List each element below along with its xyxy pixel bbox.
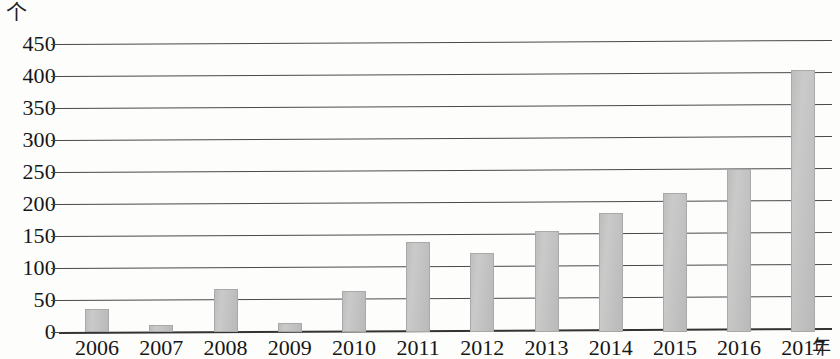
y-axis-tick-label: 250 (2, 161, 56, 183)
y-axis-tick-label: 50 (2, 289, 56, 311)
bar-column (599, 213, 623, 332)
bar-column (535, 231, 559, 332)
x-axis-unit-label: 年 (812, 338, 831, 357)
bar-column (406, 242, 430, 332)
bar-column (214, 289, 238, 332)
bar-column (727, 169, 751, 332)
bar-column (791, 70, 815, 332)
bar (85, 309, 109, 332)
y-axis-tick-label: 400 (2, 65, 56, 87)
bar-column (470, 253, 494, 332)
bar (342, 291, 366, 332)
bar-column (149, 325, 173, 332)
bar-chart: 个 450400350300250200150100500 2006200720… (0, 0, 840, 359)
bar (278, 323, 302, 332)
y-axis-tick-label: 150 (2, 225, 56, 247)
y-axis-tick-label: 100 (2, 257, 56, 279)
y-axis-tick-labels: 450400350300250200150100500 (0, 0, 56, 359)
bar (470, 253, 494, 332)
bar (149, 325, 173, 332)
y-axis-tick-label: 350 (2, 97, 56, 119)
bars (59, 0, 840, 359)
plot-area: 2006200720082009201020112012201320142015… (59, 0, 840, 359)
bar (727, 169, 751, 332)
bar-column (278, 323, 302, 332)
y-axis-tick-label: 300 (2, 129, 56, 151)
bar (406, 242, 430, 332)
y-axis-tick-label: 0 (2, 321, 56, 343)
bar (663, 193, 687, 332)
bar (599, 213, 623, 332)
bar-column (342, 291, 366, 332)
bar (214, 289, 238, 332)
bar (791, 70, 815, 332)
y-axis-tick-label: 200 (2, 193, 56, 215)
bar-column (85, 309, 109, 332)
bar (535, 231, 559, 332)
y-axis-tick-label: 450 (2, 33, 56, 55)
bar-column (663, 193, 687, 332)
